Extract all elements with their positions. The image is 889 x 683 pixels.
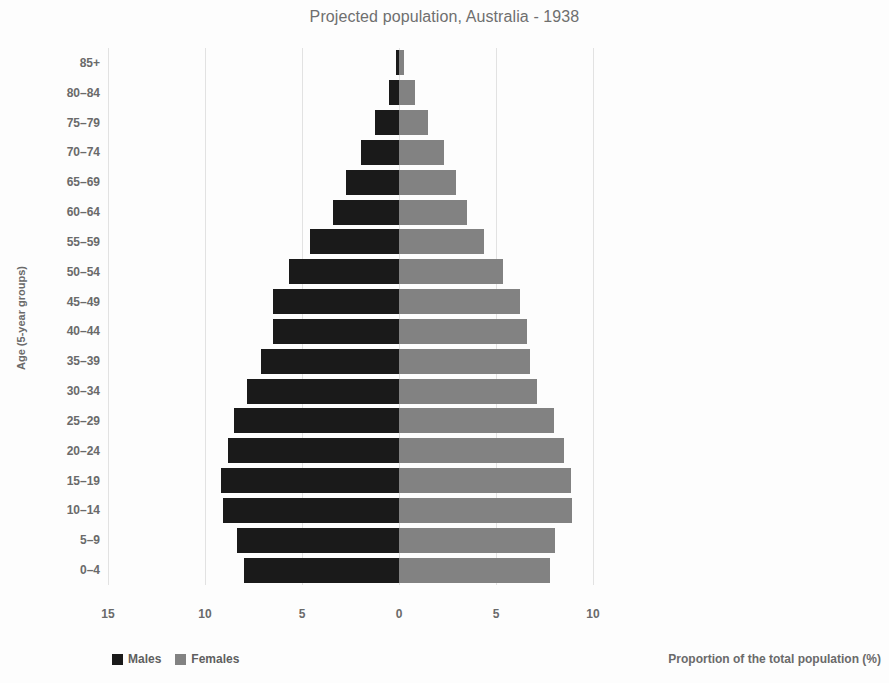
- y-tick-label-50–54: 50–54: [30, 265, 100, 279]
- bar-row: [108, 259, 593, 284]
- bar-row: [108, 468, 593, 493]
- bar-row: [108, 408, 593, 433]
- bar-males-30–34: [247, 379, 399, 404]
- bar-females-80–84: [399, 80, 415, 105]
- y-tick-label-45–49: 45–49: [30, 295, 100, 309]
- bar-females-55–59: [399, 229, 484, 254]
- population-pyramid-chart: Projected population, Australia - 1938 A…: [0, 0, 889, 683]
- x-tick-label-5: 5: [466, 607, 526, 621]
- bar-females-10–14: [399, 498, 572, 523]
- legend-swatch-males-icon: [112, 654, 123, 665]
- x-tick-label--5: 5: [272, 607, 332, 621]
- bar-row: [108, 379, 593, 404]
- y-tick-label-35–39: 35–39: [30, 354, 100, 368]
- bar-row: [108, 110, 593, 135]
- bar-males-35–39: [261, 349, 399, 374]
- x-tick-label-0: 0: [369, 607, 429, 621]
- bar-row: [108, 349, 593, 374]
- bar-males-55–59: [310, 229, 399, 254]
- bar-females-15–19: [399, 468, 571, 493]
- legend-swatch-females-icon: [175, 654, 186, 665]
- plot-area: [108, 48, 593, 585]
- gridline-10: [593, 48, 594, 585]
- bar-males-15–19: [221, 468, 399, 493]
- bar-row: [108, 438, 593, 463]
- bar-males-5–9: [237, 528, 399, 553]
- chart-title: Projected population, Australia - 1938: [0, 8, 889, 26]
- bar-females-60–64: [399, 200, 467, 225]
- y-tick-label-40–44: 40–44: [30, 324, 100, 338]
- bar-females-75–79: [399, 110, 428, 135]
- bar-males-45–49: [273, 289, 399, 314]
- y-tick-label-60–64: 60–64: [30, 205, 100, 219]
- bar-males-10–14: [223, 498, 399, 523]
- y-tick-label-5–9: 5–9: [30, 533, 100, 547]
- bar-females-0–4: [399, 558, 550, 583]
- bar-males-80–84: [389, 80, 399, 105]
- y-axis-title: Age (5-year groups): [15, 218, 27, 418]
- bar-males-50–54: [289, 259, 399, 284]
- x-axis-title: Proportion of the total population (%): [668, 652, 881, 666]
- bar-row: [108, 170, 593, 195]
- bar-row: [108, 319, 593, 344]
- bar-row: [108, 140, 593, 165]
- bar-males-20–24: [228, 438, 399, 463]
- y-tick-label-80–84: 80–84: [30, 86, 100, 100]
- bar-females-70–74: [399, 140, 444, 165]
- bar-row: [108, 200, 593, 225]
- bar-females-30–34: [399, 379, 537, 404]
- y-tick-label-15–19: 15–19: [30, 474, 100, 488]
- y-tick-label-65–69: 65–69: [30, 175, 100, 189]
- x-tick-label--15: 15: [78, 607, 138, 621]
- y-tick-label-30–34: 30–34: [30, 384, 100, 398]
- x-tick-label--10: 10: [175, 607, 235, 621]
- bar-row: [108, 498, 593, 523]
- bar-males-40–44: [273, 319, 399, 344]
- bar-row: [108, 558, 593, 583]
- y-tick-label-20–24: 20–24: [30, 444, 100, 458]
- bar-row: [108, 528, 593, 553]
- bar-males-25–29: [234, 408, 399, 433]
- bar-females-35–39: [399, 349, 530, 374]
- bar-males-0–4: [244, 558, 399, 583]
- bar-males-60–64: [333, 200, 399, 225]
- bar-females-50–54: [399, 259, 503, 284]
- bar-row: [108, 229, 593, 254]
- bar-males-75–79: [375, 110, 399, 135]
- legend-label-females: Females: [191, 652, 239, 666]
- y-tick-label-10–14: 10–14: [30, 503, 100, 517]
- bar-row: [108, 50, 593, 75]
- bar-males-65–69: [346, 170, 399, 195]
- y-tick-label-70–74: 70–74: [30, 145, 100, 159]
- bar-females-40–44: [399, 319, 527, 344]
- y-tick-label-75–79: 75–79: [30, 116, 100, 130]
- chart-legend: Males Females: [112, 652, 246, 666]
- bar-females-20–24: [399, 438, 564, 463]
- bar-females-65–69: [399, 170, 456, 195]
- bar-females-45–49: [399, 289, 520, 314]
- bar-row: [108, 289, 593, 314]
- bar-males-70–74: [361, 140, 399, 165]
- bar-females-5–9: [399, 528, 555, 553]
- legend-item-males: Males: [112, 652, 161, 666]
- y-tick-label-55–59: 55–59: [30, 235, 100, 249]
- x-tick-label-10: 10: [563, 607, 623, 621]
- bar-females-85+: [399, 50, 404, 75]
- bar-row: [108, 80, 593, 105]
- x-axis-tick-labels: 151050510: [108, 607, 593, 627]
- y-tick-label-85+: 85+: [30, 56, 100, 70]
- y-tick-label-25–29: 25–29: [30, 414, 100, 428]
- legend-label-males: Males: [128, 652, 161, 666]
- legend-item-females: Females: [175, 652, 239, 666]
- y-tick-label-0–4: 0–4: [30, 563, 100, 577]
- y-axis-tick-labels: 0–45–910–1415–1920–2425–2930–3435–3940–4…: [28, 48, 100, 585]
- bar-females-25–29: [399, 408, 554, 433]
